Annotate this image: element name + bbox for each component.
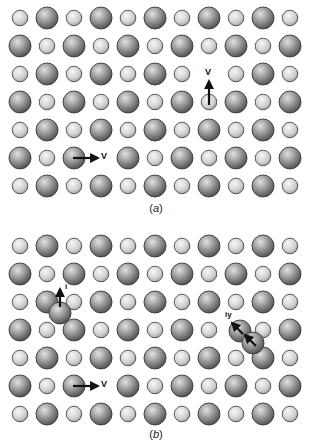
small-atom xyxy=(174,10,190,26)
small-atom xyxy=(228,178,244,194)
large-atom xyxy=(198,175,220,197)
small-atom xyxy=(66,350,82,366)
small-atom xyxy=(282,10,298,26)
small-atom xyxy=(255,94,271,110)
vacancy-label: V xyxy=(101,379,107,389)
split-interstitial-label: iy xyxy=(225,310,232,319)
large-atom xyxy=(36,7,58,29)
small-atom xyxy=(228,66,244,82)
small-atom xyxy=(282,66,298,82)
panel-b: iiyV xyxy=(9,235,301,425)
large-atom xyxy=(252,403,274,425)
small-atom xyxy=(147,38,163,54)
large-atom xyxy=(171,35,193,57)
small-atom xyxy=(174,122,190,138)
small-atom xyxy=(66,238,82,254)
small-atom xyxy=(66,10,82,26)
panel-a: VV xyxy=(9,7,301,197)
small-atom xyxy=(39,150,55,166)
large-atom xyxy=(36,175,58,197)
small-atom xyxy=(282,122,298,138)
large-atom xyxy=(117,263,139,285)
large-atom xyxy=(9,91,31,113)
defect-lattice-figure: VV iiyV (a) (b) xyxy=(0,0,313,446)
small-atom xyxy=(93,38,109,54)
large-atom xyxy=(252,119,274,141)
large-atom xyxy=(144,235,166,257)
large-atom xyxy=(171,263,193,285)
large-atom xyxy=(117,147,139,169)
large-atom xyxy=(63,91,85,113)
small-atom xyxy=(255,378,271,394)
small-atom xyxy=(201,150,217,166)
small-atom xyxy=(255,38,271,54)
large-atom xyxy=(252,291,274,313)
large-atom xyxy=(171,319,193,341)
large-atom xyxy=(9,375,31,397)
small-atom xyxy=(120,406,136,422)
large-atom xyxy=(252,175,274,197)
large-atom xyxy=(279,91,301,113)
large-atom xyxy=(171,375,193,397)
caption-a: (a) xyxy=(149,202,162,214)
large-atom xyxy=(225,375,247,397)
small-atom xyxy=(39,94,55,110)
large-atom xyxy=(225,263,247,285)
small-atom xyxy=(174,294,190,310)
small-atom xyxy=(174,350,190,366)
large-atom xyxy=(117,375,139,397)
large-atom xyxy=(9,147,31,169)
large-atom xyxy=(144,119,166,141)
small-atom xyxy=(147,378,163,394)
large-atom xyxy=(171,147,193,169)
small-atom xyxy=(39,378,55,394)
large-atom xyxy=(279,147,301,169)
small-atom xyxy=(228,294,244,310)
small-atom xyxy=(147,150,163,166)
large-atom xyxy=(117,35,139,57)
large-atom xyxy=(144,63,166,85)
small-atom xyxy=(228,238,244,254)
large-atom xyxy=(198,347,220,369)
large-atom xyxy=(279,319,301,341)
large-atom xyxy=(90,63,112,85)
small-atom xyxy=(201,266,217,282)
large-atom xyxy=(198,7,220,29)
small-atom xyxy=(120,350,136,366)
large-atom xyxy=(279,375,301,397)
small-atom xyxy=(66,66,82,82)
large-atom xyxy=(198,235,220,257)
large-atom xyxy=(63,35,85,57)
small-atom xyxy=(93,94,109,110)
interstitial-label: i xyxy=(65,282,67,291)
small-atom xyxy=(120,238,136,254)
large-atom xyxy=(9,319,31,341)
small-atom xyxy=(12,122,28,138)
large-atom xyxy=(198,119,220,141)
small-atom xyxy=(93,322,109,338)
large-atom xyxy=(252,7,274,29)
small-atom xyxy=(147,266,163,282)
large-atom xyxy=(144,347,166,369)
large-atom xyxy=(144,291,166,313)
small-atom xyxy=(12,350,28,366)
small-atom xyxy=(174,406,190,422)
large-atom xyxy=(36,403,58,425)
large-atom xyxy=(117,91,139,113)
small-atom xyxy=(120,10,136,26)
small-atom xyxy=(66,178,82,194)
large-atom xyxy=(36,347,58,369)
large-atom xyxy=(225,35,247,57)
small-atom xyxy=(228,10,244,26)
small-atom xyxy=(228,122,244,138)
small-atom xyxy=(39,38,55,54)
large-atom xyxy=(198,403,220,425)
small-atom xyxy=(282,178,298,194)
small-atom xyxy=(174,178,190,194)
large-atom xyxy=(9,263,31,285)
small-atom xyxy=(282,294,298,310)
large-atom xyxy=(90,7,112,29)
small-atom xyxy=(12,66,28,82)
small-atom xyxy=(12,238,28,254)
large-atom xyxy=(90,175,112,197)
